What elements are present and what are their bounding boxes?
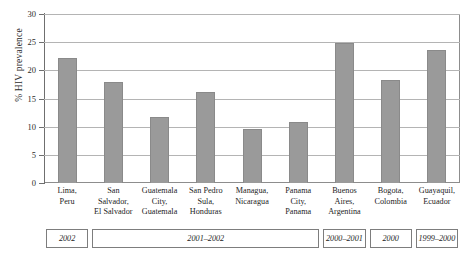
y-axis-tick-label: 10 — [28, 122, 37, 132]
category-label-line: El Salvador — [90, 207, 136, 218]
category-label-line: Buenos — [321, 186, 367, 197]
category-label-line: Peru — [44, 197, 90, 208]
hiv-prevalence-bar-chart: % HIV prevalence 051015202530 Lima,PeruS… — [0, 0, 472, 255]
category-label-line: Bogota, — [368, 186, 414, 197]
category-label: GuatemalaCity,Guatemala — [136, 186, 182, 218]
category-label-line: Guatemala — [136, 186, 182, 197]
y-axis-tick-label: 20 — [28, 65, 37, 75]
category-label-line: Nicaragua — [229, 197, 275, 208]
y-axis-tick-label: 5 — [32, 150, 36, 160]
y-axis-title: % HIV prevalence — [14, 0, 24, 140]
year-band-row: 20022001–20022000–200120001999–2000 — [44, 229, 460, 248]
category-label-line: San Pedro — [183, 186, 229, 197]
y-axis-tick-label: 30 — [28, 9, 37, 19]
category-label: Lima,Peru — [44, 186, 90, 207]
category-label-line: Argentina — [321, 207, 367, 218]
year-band-cell: 2000 — [370, 229, 412, 248]
category-label: Bogota,Colombia — [368, 186, 414, 207]
year-band-cell: 2001–2002 — [92, 229, 319, 248]
bar — [381, 80, 400, 183]
bar — [243, 129, 262, 183]
category-label-line: City, — [275, 197, 321, 208]
category-label: PanamaCity,Panama — [275, 186, 321, 218]
category-label-line: Managua, — [229, 186, 275, 197]
category-label-line: Ecuador — [414, 197, 460, 208]
x-axis-category-labels: Lima,PeruSanSalvador,El SalvadorGuatemal… — [44, 186, 460, 222]
bar — [196, 92, 215, 183]
category-label: Guayaquil,Ecuador — [414, 186, 460, 207]
bar — [427, 50, 446, 184]
category-label-line: Colombia — [368, 197, 414, 208]
year-band-cell: 1999–2000 — [416, 229, 458, 248]
category-label: Managua,Nicaragua — [229, 186, 275, 207]
category-label-line: Aires, — [321, 197, 367, 208]
category-label-line: Honduras — [183, 207, 229, 218]
category-label-line: City, — [136, 197, 182, 208]
category-label-line: Panama — [275, 207, 321, 218]
year-band-cell: 2002 — [46, 229, 88, 248]
bar — [289, 122, 308, 183]
y-axis-tick-label: 15 — [28, 94, 37, 104]
category-label-line: Salvador, — [90, 197, 136, 208]
y-axis-tick-label: 0 — [32, 178, 36, 188]
y-axis-tick — [39, 183, 44, 184]
category-label-line: Guayaquil, — [414, 186, 460, 197]
category-label: BuenosAires,Argentina — [321, 186, 367, 218]
year-band-cell: 2000–2001 — [323, 229, 365, 248]
category-label-line: San — [90, 186, 136, 197]
bar — [104, 82, 123, 183]
y-axis-tick-label: 25 — [28, 37, 37, 47]
category-label-line: Panama — [275, 186, 321, 197]
category-label-line: Sula, — [183, 197, 229, 208]
category-label-line: Lima, — [44, 186, 90, 197]
category-label-line: Guatemala — [136, 207, 182, 218]
bar-series — [44, 14, 460, 183]
bar — [335, 43, 354, 183]
bar — [58, 58, 77, 183]
bar — [150, 117, 169, 183]
category-label: San PedroSula,Honduras — [183, 186, 229, 218]
category-label: SanSalvador,El Salvador — [90, 186, 136, 218]
